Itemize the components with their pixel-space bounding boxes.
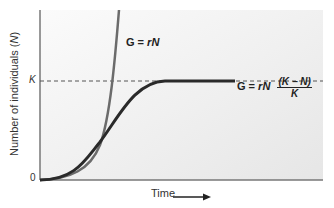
x-axis-label: Time [151, 187, 175, 199]
logistic-growth-chart: Number of individuals (N) K 0 Time G = r… [0, 0, 334, 208]
y-tick-k: K [29, 74, 36, 85]
exponential-equation-label: G = rN [126, 36, 159, 48]
time-arrow-icon [203, 194, 211, 201]
y-axis-label: Number of individuals (N) [8, 32, 20, 156]
logistic-equation-label: G = rN (K − N) K [237, 76, 312, 99]
equation-fraction: (K − N) K [277, 76, 312, 99]
y-tick-0: 0 [30, 172, 36, 183]
chart-canvas [0, 0, 334, 208]
